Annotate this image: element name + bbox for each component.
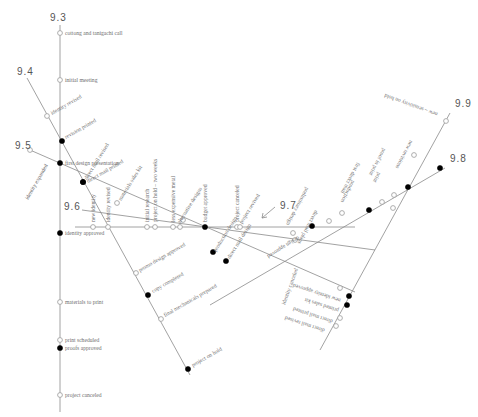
milestone-filled-marker	[437, 165, 442, 170]
event-label: initial research	[144, 189, 150, 222]
event-label: promo design approved	[138, 241, 187, 273]
event-label: materials sales kit	[117, 164, 144, 202]
milestone-open-marker	[391, 206, 396, 211]
event-label: new – sensitivity on hold	[383, 93, 438, 118]
diagram-svg: cottong and tanigachi callinitial meetin…	[0, 0, 478, 417]
event-label: materials to print	[65, 299, 104, 305]
event-label: budget approved	[202, 184, 208, 222]
line-number-label: 9.6	[64, 201, 81, 212]
event-label: copy completed	[151, 271, 185, 294]
milestone-filled-marker	[57, 160, 62, 165]
milestone-open-marker	[134, 271, 139, 276]
milestone-filled-marker	[202, 224, 207, 229]
milestone-open-marker	[91, 225, 96, 230]
event-label: identity revised	[50, 93, 83, 116]
event-label: identity approved	[65, 230, 105, 236]
event-label: initial meeting	[65, 77, 98, 83]
milestone-open-marker	[45, 114, 50, 119]
line-number-label: 9.9	[455, 98, 472, 109]
line-number-label: 9.3	[50, 12, 67, 23]
milestone-open-marker	[153, 225, 158, 230]
milestone-filled-marker	[57, 230, 62, 235]
event-labels: cottong and tanigachi callinitial meetin…	[24, 30, 439, 398]
line-number-label: 9.8	[450, 153, 467, 164]
line-number-label: 9.4	[17, 66, 34, 77]
milestone-open-marker	[58, 31, 63, 36]
milestone-filled-marker	[405, 184, 410, 189]
event-label: project on hold – two weeks	[152, 159, 158, 222]
event-label: revision printed	[64, 117, 98, 140]
event-label: alternative designs	[176, 186, 203, 225]
event-label: project canceled	[234, 185, 240, 222]
event-label: identity revised	[105, 187, 111, 222]
milestone-filled-marker	[223, 258, 228, 263]
timeline-line	[30, 150, 355, 292]
milestone-open-marker	[340, 211, 345, 216]
line-number-label: 9.7	[280, 200, 297, 211]
milestone-open-marker	[58, 300, 63, 305]
milestone-filled-marker	[344, 302, 349, 307]
event-label: cottong and tanigachi call	[65, 30, 123, 36]
event-label: final mechanicals prepared	[163, 282, 218, 317]
milestone-open-marker	[380, 200, 385, 205]
arrow-icon	[262, 207, 275, 218]
event-label: print scheduled	[65, 337, 100, 343]
milestone-open-marker	[238, 225, 243, 230]
milestone-filled-marker	[59, 138, 64, 143]
milestone-open-marker	[178, 225, 183, 230]
milestone-open-marker	[58, 393, 63, 398]
milestone-open-marker	[171, 225, 176, 230]
event-label: new identity	[90, 194, 96, 222]
milestone-open-marker	[444, 119, 449, 124]
event-label: project on hold	[191, 346, 224, 368]
event-label: less expensive metal	[170, 176, 176, 222]
milestone-open-marker	[58, 78, 63, 83]
milestone-open-marker	[392, 193, 397, 198]
milestone-open-marker	[291, 231, 296, 236]
line-number-label: 9.5	[15, 140, 32, 151]
milestone-open-marker	[115, 201, 120, 206]
timeline-diagram: cottong and tanigachi callinitial meetin…	[0, 0, 478, 417]
milestone-open-marker	[58, 338, 63, 343]
milestone-open-marker	[159, 317, 164, 322]
event-label: identity expanded	[24, 163, 49, 201]
event-label: design approved	[266, 235, 301, 260]
event-label: project revived	[238, 193, 261, 225]
event-label: new identity approved	[292, 283, 342, 304]
milestone-open-marker	[338, 316, 343, 321]
milestone-open-marker	[412, 153, 417, 158]
milestone-filled-marker	[57, 345, 62, 350]
milestone-open-marker	[334, 324, 339, 329]
milestone-filled-marker	[366, 207, 371, 212]
milestone-open-marker	[338, 286, 343, 291]
milestone-open-marker	[327, 219, 332, 224]
event-label: project canceled	[65, 392, 102, 398]
milestone-filled-marker	[80, 179, 85, 184]
milestone-filled-marker	[346, 293, 351, 298]
event-label: proofs approved	[65, 345, 102, 351]
milestone-filled-marker	[145, 292, 150, 297]
milestone-open-marker	[106, 225, 111, 230]
milestone-filled-marker	[185, 366, 190, 371]
milestone-open-marker	[145, 225, 150, 230]
